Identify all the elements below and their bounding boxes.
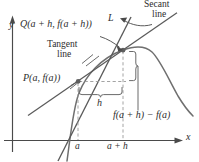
tangent-leader-2 <box>86 56 99 66</box>
x-axis-arrowhead <box>175 138 184 144</box>
run-label-h: h <box>97 98 102 108</box>
tick-label-a-plus-h: a + h <box>107 142 128 152</box>
point-q-label: Q(a + h, f(a + h)) <box>20 19 92 29</box>
tangent-label-leaders <box>82 55 99 67</box>
x-axis-label: x <box>186 132 190 142</box>
rise-brace <box>130 52 139 81</box>
p-label-leaders <box>70 82 78 89</box>
calculus-diagram: y x Q(a + h, f(a + h)) P(a, f(a)) Secant… <box>0 0 199 162</box>
tangent-line-label-line2: line <box>57 50 71 60</box>
y-axis-label: y <box>9 20 13 30</box>
point-p-label: P(a, f(a)) <box>23 73 60 83</box>
secant-line-label-line2: line <box>152 10 166 20</box>
tangent-line-name-label: L <box>108 13 114 23</box>
rise-label: f(a + h) − f(a) <box>113 110 170 120</box>
axes-group <box>4 16 183 153</box>
function-curve <box>67 47 193 161</box>
tick-label-a: a <box>75 142 80 152</box>
point-p-marker <box>76 79 81 84</box>
h-brace <box>79 88 122 98</box>
